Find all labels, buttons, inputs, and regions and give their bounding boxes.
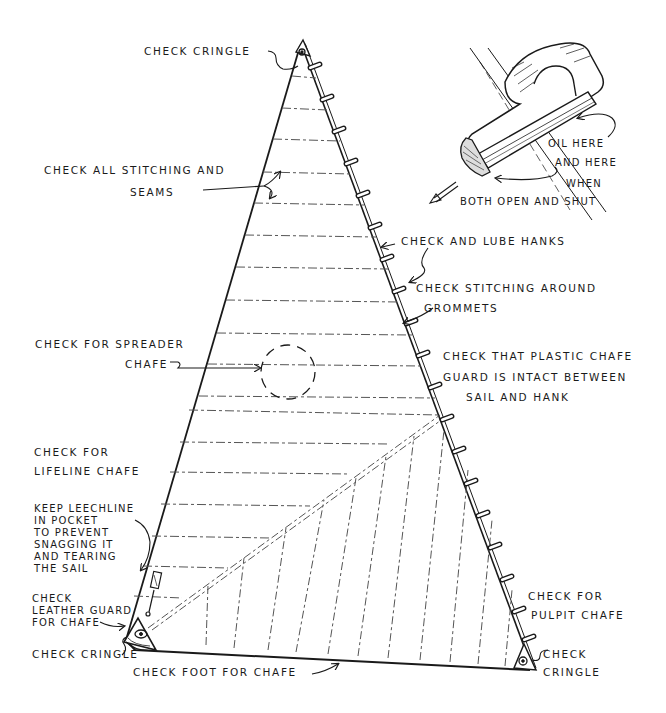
label-leechline-line6: THE SAIL xyxy=(34,563,134,575)
label-lifeline-line1: CHECK FOR xyxy=(34,445,109,459)
label-plastic-guard-line1: CHECK THAT PLASTIC CHAFE xyxy=(443,349,633,363)
leader-lube-hanks xyxy=(382,244,395,247)
label-leechline: KEEP LEECHLINE IN POCKET TO PREVENT SNAG… xyxy=(34,503,134,575)
label-spreader-line1: CHECK FOR SPREADER xyxy=(35,337,184,351)
label-leechline-line4: SNAGGING IT xyxy=(34,539,134,551)
spreader-zone-dashed-circle xyxy=(261,345,315,399)
label-clew-cringle-line2: CRINGLE xyxy=(543,665,600,679)
label-leechline-line1: KEEP LEECHLINE xyxy=(34,503,134,515)
label-leechline-line3: TO PREVENT xyxy=(34,527,134,539)
label-leather-guard: CHECK LEATHER GUARD FOR CHAFE xyxy=(32,593,132,629)
label-pulpit-line2: PULPIT CHAFE xyxy=(531,608,624,622)
label-when: WHEN xyxy=(566,178,602,190)
label-stitching-line1: CHECK ALL STITCHING AND xyxy=(44,163,225,177)
hank-detail-illustration xyxy=(461,43,606,220)
label-leechline-line2: IN POCKET xyxy=(34,515,134,527)
label-grommets-line1: CHECK STITCHING AROUND xyxy=(416,281,597,295)
label-foot: CHECK FOOT FOR CHAFE xyxy=(133,665,297,679)
arrow-down-left-icon xyxy=(430,182,458,203)
clew-cringle xyxy=(514,644,536,670)
leader-foot xyxy=(312,664,338,674)
label-oil-here: OIL HERE xyxy=(548,138,604,150)
leader-leechline xyxy=(135,520,150,570)
label-grommets-line2: GROMMETS xyxy=(424,301,498,315)
label-leather-guard-line1: CHECK xyxy=(32,593,132,605)
label-lifeline-line2: LIFELINE CHAFE xyxy=(34,464,140,478)
label-stitching: CHECK ALL STITCHING AND SEAMS xyxy=(44,163,225,199)
label-both-open-shut: BOTH OPEN AND SHUT xyxy=(460,196,596,208)
leader-spreader xyxy=(170,362,260,368)
label-clew-cringle-line1: CHECK xyxy=(543,647,587,661)
label-lube-hanks: CHECK AND LUBE HANKS xyxy=(401,234,566,248)
label-leather-guard-line3: FOR CHAFE xyxy=(32,617,132,629)
label-pulpit-line1: CHECK FOR xyxy=(528,589,603,603)
label-spreader-line2: CHAFE xyxy=(125,357,168,371)
label-leather-guard-line2: LEATHER GUARD xyxy=(32,605,132,617)
label-and-here: AND HERE xyxy=(555,157,617,169)
label-plastic-guard-line2: GUARD IS INTACT BETWEEN xyxy=(443,370,627,384)
label-stitching-line2: SEAMS xyxy=(130,185,311,199)
label-head-cringle: CHECK CRINGLE xyxy=(144,44,250,58)
label-tack-cringle: CHECK CRINGLE xyxy=(32,647,138,661)
leechline-pocket xyxy=(146,571,162,616)
label-plastic-guard-line3: SAIL AND HANK xyxy=(466,390,569,404)
label-leechline-line5: AND TEARING xyxy=(34,551,134,563)
